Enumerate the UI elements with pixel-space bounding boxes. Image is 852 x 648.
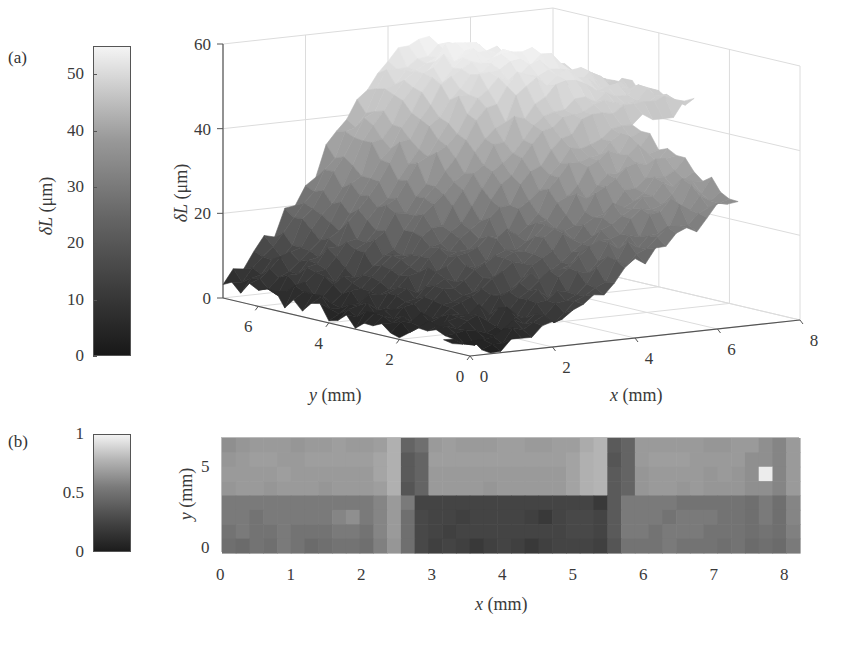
heatmap-x-tick-label: 0: [216, 566, 225, 583]
surface-x-label-unit: (mm): [623, 385, 663, 405]
surface-y-label-symbol: y: [309, 385, 317, 405]
surface-z-label-unit: (μm): [171, 164, 191, 200]
surface-x-tick-label: 6: [727, 340, 736, 359]
heatmap-x-tick-label: 8: [780, 566, 789, 583]
heatmap-x-tick-label: 1: [287, 566, 296, 583]
heatmap-x-tick-label: 7: [710, 566, 719, 583]
heatmap-y-label-unit: (mm): [176, 468, 196, 508]
heatmap: [221, 437, 799, 552]
surface-z-label: δL (μm): [172, 164, 190, 223]
surface-x-label: x (mm): [610, 386, 663, 404]
surface-y-tick-label: 0: [456, 367, 465, 386]
heatmap-x-tick-label: 5: [569, 566, 578, 583]
surface-y-label: y (mm): [309, 386, 362, 404]
surface-z-tick-label: 0: [203, 289, 212, 308]
surface-z-tick-label: 20: [194, 204, 211, 223]
surface-x-tick-label: 0: [480, 367, 489, 386]
surface-x-tick-label: 4: [645, 349, 654, 368]
heatmap-cells: [222, 438, 800, 553]
heatmap-x-tick-label: 2: [357, 566, 366, 583]
surface-y-label-unit: (mm): [322, 385, 362, 405]
heatmap-y-tick-label: 5: [201, 458, 210, 475]
surface-z-tick-label: 60: [194, 35, 211, 54]
heatmap-x-label-symbol: x: [475, 594, 483, 614]
heatmap-x-label-unit: (mm): [488, 594, 528, 614]
heatmap-x-tick-label: 3: [428, 566, 437, 583]
heatmap-x-tick-label: 4: [498, 566, 507, 583]
heatmap-x-tick-label: 6: [639, 566, 648, 583]
surface-y-tick-label: 6: [244, 317, 253, 336]
surface-x-tick-label: 2: [562, 358, 571, 377]
surface-y-tick-label: 2: [385, 350, 394, 369]
surface-x-label-symbol: x: [610, 385, 618, 405]
surface-y-tick-label: 4: [315, 334, 324, 353]
surface-mesh: [223, 36, 738, 353]
heatmap-y-label: y (mm): [177, 468, 195, 521]
heatmap-y-label-symbol: y: [176, 512, 196, 520]
heatmap-y-tick-label: 0: [201, 539, 210, 556]
heatmap-x-label: x (mm): [475, 595, 528, 613]
surface-z-label-symbol: δL: [171, 204, 191, 222]
surface-z-tick-label: 40: [194, 120, 211, 139]
surface-x-tick-label: 8: [810, 331, 819, 350]
